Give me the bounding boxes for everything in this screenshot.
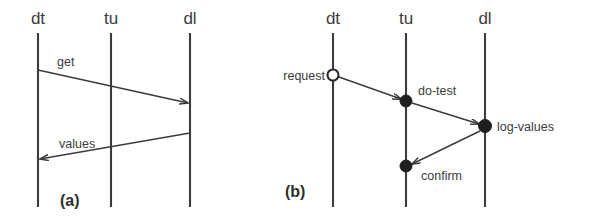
- message-arrow-b-log-values-to-confirm: [412, 131, 480, 164]
- diagram-canvas: dttudlgetvalues(a)dttudlrequestdo-testlo…: [0, 0, 595, 222]
- event-marker-b-log-values: [479, 120, 492, 133]
- event-label-b-request: request: [283, 69, 325, 83]
- panel-caption-b: (b): [285, 183, 305, 200]
- panel-b: dttudlrequestdo-testlog-valuesconfirm(b): [283, 9, 554, 207]
- message-arrow-a-get: [38, 70, 188, 103]
- panel-a: dttudlgetvalues(a): [31, 9, 197, 209]
- sequence-diagram-figure: dttudlgetvalues(a)dttudlrequestdo-testlo…: [0, 0, 595, 222]
- event-marker-b-request: [328, 70, 339, 81]
- panel-caption-a: (a): [60, 192, 80, 209]
- lifeline-header-b-dt: dt: [326, 9, 340, 28]
- lifeline-header-a-dl: dl: [183, 9, 196, 28]
- lifeline-header-a-dt: dt: [31, 9, 45, 28]
- message-arrow-b-request-to-do-test: [339, 77, 401, 99]
- event-label-b-log-values: log-values: [497, 120, 554, 134]
- event-marker-b-confirm: [400, 160, 412, 172]
- panels-root: dttudlgetvalues(a)dttudlrequestdo-testlo…: [31, 9, 554, 209]
- lifeline-header-b-tu: tu: [399, 9, 413, 28]
- lifeline-header-a-tu: tu: [104, 9, 118, 28]
- message-label-a-get: get: [57, 55, 75, 69]
- message-arrow-b-do-test-to-log-values: [412, 103, 479, 124]
- event-label-b-confirm: confirm: [421, 169, 462, 183]
- event-label-b-do-test: do-test: [418, 84, 457, 98]
- message-label-a-values: values: [59, 137, 95, 151]
- lifeline-header-b-dl: dl: [478, 9, 491, 28]
- event-marker-b-do-test: [400, 95, 412, 107]
